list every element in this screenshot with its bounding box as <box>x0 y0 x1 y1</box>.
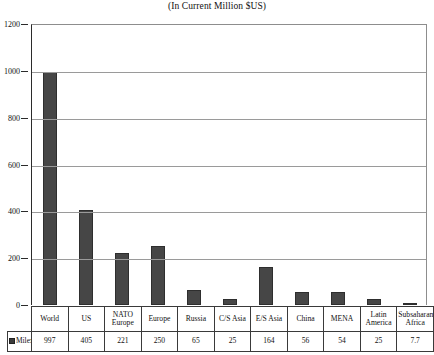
gridline <box>32 72 426 73</box>
gridline <box>32 212 426 213</box>
table-category-label: C/S Asia <box>216 315 250 324</box>
table-category-cell: Russia <box>178 307 215 332</box>
table-category-cell: LatinAmerica <box>360 307 397 332</box>
table-category-cell: E/S Asia <box>251 307 288 332</box>
table-category-cell: World <box>32 307 69 332</box>
table-category-label: US <box>70 315 104 324</box>
bar-chart: (In Current Million $US) 020040060080010… <box>0 0 434 355</box>
table-category-cell: US <box>68 307 105 332</box>
table-category-cell: NATOEurope <box>105 307 142 332</box>
table-value-cell: 250 <box>141 332 178 352</box>
bar[interactable] <box>187 290 201 305</box>
table-category-label: Africa <box>398 319 432 328</box>
table-category-label: Russia <box>179 315 213 324</box>
bar[interactable] <box>403 303 417 305</box>
y-axis-tick-label: 1000 <box>4 66 20 75</box>
bar[interactable] <box>115 253 129 305</box>
table-value-cell: 25 <box>360 332 397 352</box>
table-value-cell: 7.7 <box>397 332 434 352</box>
table-category-label: China <box>289 315 323 324</box>
bar[interactable] <box>79 210 93 305</box>
bar[interactable] <box>223 299 237 305</box>
table-value-cell: 65 <box>178 332 215 352</box>
y-axis-tick <box>21 71 28 72</box>
plot-area <box>31 24 427 305</box>
table-value-cell: 221 <box>105 332 142 352</box>
table-value-cell: 56 <box>287 332 324 352</box>
gridline <box>32 259 426 260</box>
table-category-cell: MENA <box>324 307 361 332</box>
chart-title: (In Current Million $US) <box>0 1 434 11</box>
table-value-cell: 997 <box>32 332 69 352</box>
table-category-label: MENA <box>325 315 359 324</box>
y-axis-tick <box>21 165 28 166</box>
y-axis-tick <box>21 118 28 119</box>
y-axis-tick-label: 800 <box>8 113 20 122</box>
bar[interactable] <box>43 72 57 305</box>
y-axis-tick <box>21 211 28 212</box>
table-value-cell: 164 <box>251 332 288 352</box>
y-axis-tick-label: 400 <box>8 207 20 216</box>
table-row-values: Milex99740522125065251645654257.7 <box>8 332 434 352</box>
table-category-cell: Europe <box>141 307 178 332</box>
table-value-cell: 25 <box>214 332 251 352</box>
y-axis-tick-label: 200 <box>8 254 20 263</box>
table-category-label: Europe <box>106 319 140 328</box>
legend-cell: Milex <box>8 332 32 352</box>
data-table: WorldUSNATOEuropeEuropeRussiaC/S AsiaE/S… <box>7 306 434 352</box>
bar[interactable] <box>259 267 273 305</box>
table-category-label: America <box>362 319 396 328</box>
table-category-cell: C/S Asia <box>214 307 251 332</box>
table-category-cell: China <box>287 307 324 332</box>
gridline <box>32 166 426 167</box>
table-category-label: Europe <box>143 315 177 324</box>
data-table-wrap: WorldUSNATOEuropeEuropeRussiaC/S AsiaE/S… <box>7 306 434 352</box>
y-axis-tick <box>21 24 28 25</box>
y-axis-tick-label: 600 <box>8 160 20 169</box>
table-spacer-cell <box>8 307 32 332</box>
table-row-categories: WorldUSNATOEuropeEuropeRussiaC/S AsiaE/S… <box>8 307 434 332</box>
table-value-cell: 54 <box>324 332 361 352</box>
bar[interactable] <box>295 292 309 305</box>
y-axis: 020040060080010001200 <box>0 0 31 355</box>
bar[interactable] <box>367 299 381 305</box>
bar[interactable] <box>151 246 165 305</box>
bar[interactable] <box>331 292 345 305</box>
y-axis-tick <box>21 258 28 259</box>
gridline <box>32 119 426 120</box>
y-axis-tick-label: 1200 <box>4 20 20 29</box>
legend-swatch-icon <box>9 338 15 344</box>
legend-label: Milex <box>16 336 32 345</box>
table-value-cell: 405 <box>68 332 105 352</box>
table-category-cell: SubsaharanAfrica <box>397 307 434 332</box>
table-category-label: E/S Asia <box>252 315 286 324</box>
table-category-label: World <box>33 315 67 324</box>
